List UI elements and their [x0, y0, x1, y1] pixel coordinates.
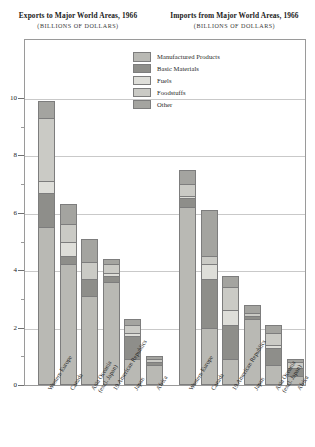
- legend-label: Manufactured Products: [157, 53, 220, 60]
- legend-item[interactable]: Fuels: [133, 76, 220, 86]
- imports-subtitle: (BILLIONS OF DOLLARS): [156, 21, 313, 31]
- legend-swatch-icon: [133, 52, 151, 62]
- y-tick-label: 10: [10, 94, 17, 102]
- exports-title: Exports to Major World Areas, 1966: [2, 11, 154, 21]
- bar-segment-manufactured-products: [179, 207, 196, 385]
- bar-segment-basic-materials: [222, 325, 239, 359]
- y-axis: 0246810: [0, 39, 24, 387]
- y-tick-label: 8: [14, 151, 18, 159]
- bar-segment-foodstuffs: [179, 184, 196, 195]
- legend-item[interactable]: Manufactured Products: [133, 52, 220, 62]
- exports-title-block: Exports to Major World Areas, 1966 (BILL…: [2, 11, 154, 31]
- bar-segment-foodstuffs: [81, 262, 98, 279]
- bar-segment-foodstuffs: [124, 325, 141, 334]
- bar-segment-other: [201, 210, 218, 256]
- chart-legend: Manufactured ProductsBasic MaterialsFuel…: [133, 52, 220, 109]
- y-tick-label: 4: [14, 266, 18, 274]
- bar-segment-basic-materials: [179, 198, 196, 207]
- bar-segment-fuels: [201, 264, 218, 278]
- bar-segment-other: [60, 204, 77, 224]
- bar-segment-fuels: [222, 310, 239, 324]
- bar-segment-manufactured-products: [81, 296, 98, 385]
- bar-segment-fuels: [38, 181, 55, 192]
- y-tick-label: 6: [14, 209, 18, 217]
- bar-segment-foodstuffs: [265, 333, 282, 344]
- bar-segment-manufactured-products: [38, 227, 55, 385]
- bar-segment-other: [38, 101, 55, 118]
- bar-segment-other: [265, 325, 282, 334]
- bar-segment-other: [244, 305, 261, 314]
- legend-swatch-icon: [133, 64, 151, 74]
- bar-segment-other: [222, 276, 239, 287]
- imports-title-block: Imports from Major World Areas, 1966 (BI…: [156, 11, 313, 31]
- bar-stack[interactable]: [179, 170, 196, 385]
- imports-title: Imports from Major World Areas, 1966: [156, 11, 313, 21]
- bar-segment-fuels: [60, 242, 77, 256]
- panel-titles: Exports to Major World Areas, 1966 (BILL…: [0, 11, 315, 37]
- bar-segment-other: [81, 239, 98, 262]
- legend-label: Other: [157, 101, 172, 108]
- legend-swatch-icon: [133, 76, 151, 86]
- legend-item[interactable]: Other: [133, 100, 220, 110]
- legend-label: Fuels: [157, 77, 172, 84]
- bar-segment-basic-materials: [81, 279, 98, 296]
- legend-swatch-icon: [133, 100, 151, 110]
- y-tick-label: 2: [14, 324, 18, 332]
- exports-subtitle: (BILLIONS OF DOLLARS): [2, 21, 154, 31]
- bar-segment-foodstuffs: [201, 256, 218, 265]
- chart-page: Exports to Major World Areas, 1966 (BILL…: [0, 0, 315, 447]
- bar-stack[interactable]: [38, 101, 55, 385]
- bar-segment-basic-materials: [38, 193, 55, 227]
- bar-segment-basic-materials: [265, 348, 282, 365]
- bar-stack[interactable]: [222, 276, 239, 385]
- bar-segment-foodstuffs: [103, 264, 120, 273]
- bar-segment-other: [179, 170, 196, 184]
- bar-segment-foodstuffs: [38, 118, 55, 181]
- legend-swatch-icon: [133, 88, 151, 98]
- bar-segment-basic-materials: [60, 256, 77, 265]
- bar-segment-foodstuffs: [222, 287, 239, 310]
- x-axis-labels: Western EuropeCanadaAsia Oceania(excl. J…: [0, 388, 315, 447]
- bar-segment-basic-materials: [201, 279, 218, 328]
- bar-stack[interactable]: [81, 239, 98, 385]
- legend-label: Foodstuffs: [157, 89, 186, 96]
- legend-item[interactable]: Foodstuffs: [133, 88, 220, 98]
- legend-label: Basic Materials: [157, 65, 199, 72]
- bar-segment-foodstuffs: [60, 224, 77, 241]
- legend-item[interactable]: Basic Materials: [133, 64, 220, 74]
